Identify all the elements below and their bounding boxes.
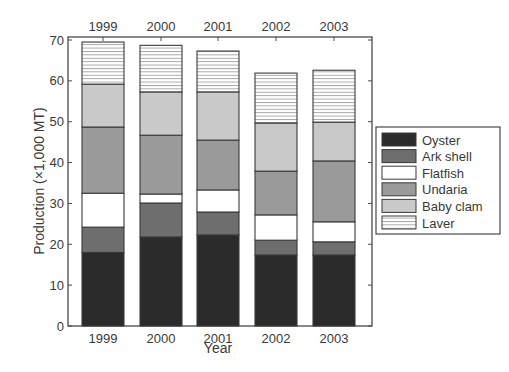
legend-label: Flatfish xyxy=(422,166,464,181)
bar-segment-oyster xyxy=(82,252,124,326)
bar-segment-flatfish xyxy=(313,222,355,242)
legend-label: Baby clam xyxy=(422,199,483,214)
bar-segment-undaria xyxy=(82,127,124,193)
bar-segment-oyster xyxy=(255,255,297,326)
x-axis-title: Year xyxy=(204,340,233,356)
bar-segment-laver xyxy=(255,73,297,123)
bar-segment-undaria xyxy=(140,135,182,194)
x-tick-label-top: 1999 xyxy=(89,19,118,34)
bar-segment-baby-clam xyxy=(255,123,297,171)
bar-segment-baby-clam xyxy=(82,84,124,127)
bar-segment-ark-shell xyxy=(255,240,297,255)
legend: OysterArk shellFlatfishUndariaBaby clamL… xyxy=(376,127,500,234)
bar-segment-ark-shell xyxy=(197,212,239,235)
bar-segment-oyster xyxy=(313,255,355,326)
legend-swatch xyxy=(382,183,416,196)
x-tick-label: 2000 xyxy=(147,331,176,346)
x-tick-label: 2003 xyxy=(320,331,349,346)
y-tick-label: 70 xyxy=(50,33,64,48)
y-tick-label: 20 xyxy=(50,237,64,252)
x-tick-label-top: 2001 xyxy=(204,19,233,34)
y-tick-label: 10 xyxy=(50,278,64,293)
y-tick-label: 40 xyxy=(50,155,64,170)
legend-item-oyster: Oyster xyxy=(382,133,461,148)
y-tick-label: 0 xyxy=(57,319,64,334)
bar-segment-laver xyxy=(82,42,124,84)
legend-label: Laver xyxy=(422,216,455,231)
legend-label: Ark shell xyxy=(422,149,472,164)
bar-2003 xyxy=(313,70,355,326)
legend-item-undaria: Undaria xyxy=(382,182,468,197)
bar-segment-flatfish xyxy=(197,190,239,212)
bar-segment-laver xyxy=(197,51,239,92)
bar-segment-ark-shell xyxy=(82,227,124,252)
bar-segment-oyster xyxy=(140,237,182,326)
legend-swatch xyxy=(382,216,416,229)
bar-segment-baby-clam xyxy=(140,92,182,135)
bar-segment-undaria xyxy=(255,171,297,215)
legend-swatch xyxy=(382,199,416,212)
bar-2001 xyxy=(197,51,239,326)
x-tick-label: 2002 xyxy=(262,331,291,346)
bars-group xyxy=(82,42,355,326)
y-axis-title: Production (×1,000 MT) xyxy=(31,107,47,254)
y-tick-label: 50 xyxy=(50,114,64,129)
bar-segment-undaria xyxy=(197,140,239,190)
y-tick-label: 30 xyxy=(50,196,64,211)
y-tick-label: 60 xyxy=(50,73,64,88)
bar-1999 xyxy=(82,42,124,326)
legend-label: Undaria xyxy=(422,182,468,197)
legend-swatch xyxy=(382,133,416,146)
bar-segment-baby-clam xyxy=(197,92,239,140)
bar-2000 xyxy=(140,45,182,326)
bar-segment-flatfish xyxy=(82,193,124,227)
bar-segment-oyster xyxy=(197,235,239,326)
bar-segment-laver xyxy=(140,45,182,92)
bar-segment-undaria xyxy=(313,161,355,222)
x-tick-label-top: 2000 xyxy=(147,19,176,34)
x-tick-label: 1999 xyxy=(89,331,118,346)
legend-swatch xyxy=(382,150,416,163)
legend-item-flatfish: Flatfish xyxy=(382,166,464,181)
x-tick-label-top: 2002 xyxy=(262,19,291,34)
legend-item-baby-clam: Baby clam xyxy=(382,199,483,214)
legend-label: Oyster xyxy=(422,133,461,148)
legend-swatch xyxy=(382,166,416,179)
bar-segment-baby-clam xyxy=(313,122,355,161)
stacked-bar-chart: 0102030405060701999199920002000200120012… xyxy=(0,0,509,372)
bar-2002 xyxy=(255,73,297,326)
bar-segment-flatfish xyxy=(255,215,297,240)
x-tick-label-top: 2003 xyxy=(320,19,349,34)
bar-segment-ark-shell xyxy=(313,242,355,255)
bar-segment-ark-shell xyxy=(140,203,182,237)
bar-segment-laver xyxy=(313,70,355,122)
legend-item-ark-shell: Ark shell xyxy=(382,149,472,164)
bar-segment-flatfish xyxy=(140,194,182,203)
